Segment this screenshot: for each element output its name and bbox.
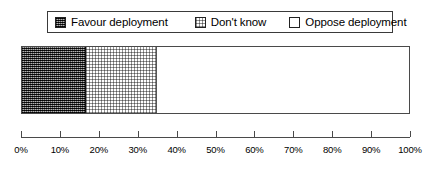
axis-tick [371,131,372,137]
axis-tick-label: 90% [362,145,380,155]
dark-crosshatch-swatch-icon [55,17,66,28]
axis-tick-label: 100% [398,145,422,155]
axis-tick-label: 70% [284,145,302,155]
axis-tick [293,131,294,137]
axis-tick [254,131,255,137]
axis-tick-label: 20% [90,145,108,155]
axis-tick [99,131,100,137]
light-stipple-swatch-icon [195,17,206,28]
axis-tick [410,131,411,137]
legend-label-favour-deployment: Favour deployment [71,17,168,28]
axis-tick [216,131,217,137]
empty-swatch-icon [289,17,300,28]
legend-item-favour-deployment: Favour deployment [55,12,168,32]
legend-label-dont-know: Don't know [211,17,267,28]
axis-tick-label: 80% [323,145,341,155]
axis-tick-label: 10% [51,145,69,155]
legend-item-dont-know: Don't know [195,12,267,32]
axis-tick-label: 40% [167,145,185,155]
chart-legend: Favour deployment Don't know Oppose depl… [47,11,393,33]
bar-segment-dont-know [86,47,158,113]
bar-segment-favour-deployment [22,47,86,113]
axis-tick [138,131,139,137]
axis-tick [332,131,333,137]
axis-tick-label: 50% [206,145,224,155]
stacked-bar-chart [21,46,410,114]
axis-tick [60,131,61,137]
axis-tick-label: 0% [14,145,27,155]
axis-tick [21,131,22,137]
legend-label-oppose-deployment: Oppose deployment [305,17,406,28]
bar-segment-oppose-deployment [157,47,409,113]
axis-tick-label: 30% [128,145,146,155]
axis-tick-label: 60% [245,145,263,155]
legend-item-oppose-deployment: Oppose deployment [289,12,406,32]
x-axis: 0%10%20%30%40%50%60%70%80%90%100% [21,137,410,138]
axis-tick [177,131,178,137]
